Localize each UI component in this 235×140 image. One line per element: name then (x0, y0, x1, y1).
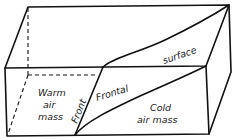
label-air: air (43, 99, 56, 110)
label-cold-air-mass: air mass (137, 114, 177, 125)
hidden-depth-edge (8, 75, 28, 134)
label-frontal: Frontal (94, 83, 129, 103)
front-face-outline (5, 66, 209, 136)
label-mass: mass (38, 111, 63, 122)
cold-front-diagram: Warm air mass Front Frontal surface Cold… (0, 0, 235, 140)
label-cold: Cold (150, 102, 172, 113)
label-warm: Warm (38, 87, 66, 98)
right-face-outline (209, 5, 231, 134)
label-surface: surface (161, 44, 198, 66)
block-diagram-svg: Warm air mass Front Frontal surface Cold… (0, 0, 235, 140)
labels: Warm air mass Front Frontal surface Cold… (38, 44, 198, 125)
